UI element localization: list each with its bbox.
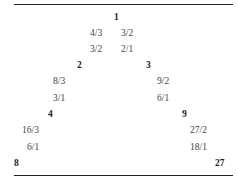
left-ratio-1-lower: 3/1 bbox=[53, 93, 65, 103]
right-ratio-2-upper: 27/2 bbox=[190, 125, 207, 135]
right-ratio-2-lower: 18/1 bbox=[190, 142, 207, 152]
left-ratio-2-upper: 16/3 bbox=[22, 125, 39, 135]
right-ratio-1-lower: 6/1 bbox=[157, 93, 169, 103]
node-left-1: 2 bbox=[77, 60, 82, 70]
apex-ratio-2-right: 2/1 bbox=[121, 44, 133, 54]
node-left-3: 8 bbox=[14, 158, 19, 168]
apex-ratio-1-left: 4/3 bbox=[90, 28, 102, 38]
top-rule bbox=[14, 4, 233, 5]
node-apex: 1 bbox=[114, 12, 119, 22]
left-ratio-1-upper: 8/3 bbox=[53, 76, 65, 86]
node-right-1: 3 bbox=[146, 60, 151, 70]
bottom-rule bbox=[14, 175, 233, 176]
node-right-2: 9 bbox=[182, 109, 187, 119]
node-right-3: 27 bbox=[215, 158, 225, 168]
apex-ratio-1-right: 3/2 bbox=[121, 28, 133, 38]
left-ratio-2-lower: 6/1 bbox=[27, 142, 39, 152]
right-ratio-1-upper: 9/2 bbox=[157, 76, 169, 86]
node-left-2: 4 bbox=[48, 109, 53, 119]
apex-ratio-2-left: 3/2 bbox=[90, 44, 102, 54]
